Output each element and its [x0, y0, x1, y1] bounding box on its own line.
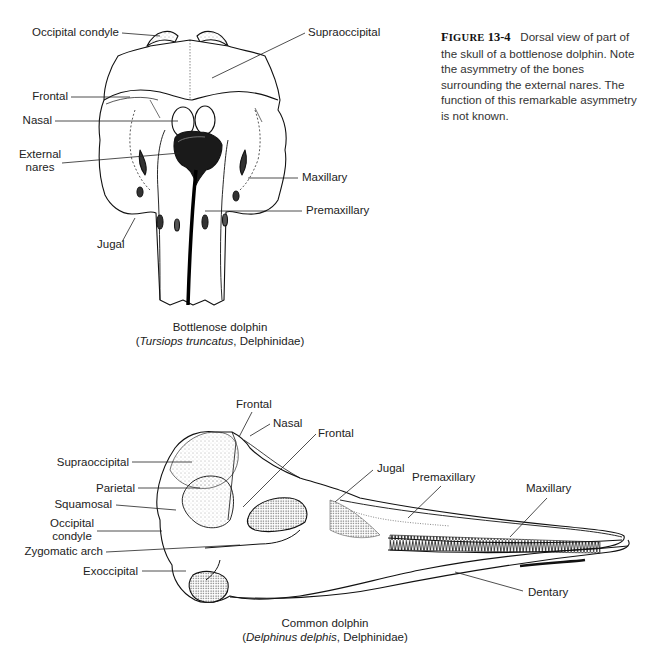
- label-nasal-top: Nasal: [0, 114, 52, 127]
- label-squamosal-side: Squamosal: [0, 498, 112, 511]
- label-premaxillary-side: Premaxillary: [412, 471, 475, 484]
- label-nasal-side: Nasal: [273, 417, 302, 430]
- label-frontal-top: Frontal: [0, 90, 68, 103]
- label-jugal-side: Jugal: [377, 462, 405, 475]
- label-frontal-side: Frontal: [318, 427, 354, 440]
- label-exoccipital-side: Exoccipital: [0, 565, 138, 578]
- figure-caption: FIGURE 13-4 Dorsal view of part of the s…: [441, 29, 646, 123]
- label-dentary-side: Dentary: [528, 586, 568, 599]
- label-jugal-top: Jugal: [97, 238, 125, 251]
- label-frontal-upper-side: Frontal: [236, 398, 272, 411]
- label-parietal-side: Parietal: [0, 482, 135, 495]
- species-label-bottlenose: Bottlenose dolphin (Tursiops truncatus, …: [100, 320, 340, 348]
- label-maxillary-side: Maxillary: [526, 482, 571, 495]
- label-occipital-condyle-top: Occipital condyle: [0, 26, 119, 39]
- bottlenose-dorsal-skull: [99, 31, 286, 305]
- label-zygomatic-arch-side: Zygomatic arch: [0, 545, 103, 558]
- figure-number: FIGURE 13-4: [441, 30, 511, 44]
- species-label-common: Common dolphin (Delphinus delphis, Delph…: [200, 616, 450, 644]
- common-dolphin-lateral-skull: [157, 432, 629, 603]
- label-supraoccipital-side: Supraoccipital: [0, 456, 129, 469]
- label-occipital-condyle-side: Occipital condyle: [48, 517, 96, 543]
- label-supraoccipital-top: Supraoccipital: [308, 26, 380, 39]
- label-maxillary-top: Maxillary: [302, 171, 347, 184]
- label-external-nares: External nares: [16, 148, 64, 174]
- label-premaxillary-top: Premaxillary: [306, 204, 369, 217]
